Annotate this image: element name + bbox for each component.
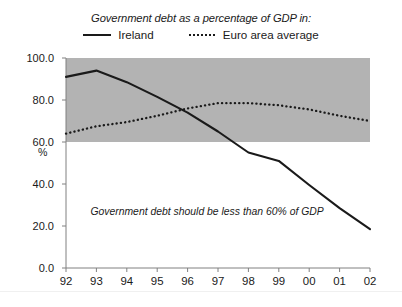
y-axis-unit-label: %: [38, 146, 47, 158]
x-axis-tick-label: 99: [266, 275, 292, 287]
shaded-band: [66, 58, 370, 142]
x-axis-tick-label: 98: [235, 275, 261, 287]
y-axis-tick-label: 100.0: [12, 52, 54, 64]
x-axis-tick-label: 01: [327, 275, 353, 287]
plot-area: 0.020.040.060.080.0100.0 929394959697989…: [0, 0, 402, 307]
x-axis-tick-label: 95: [144, 275, 170, 287]
x-axis-tick-label: 96: [175, 275, 201, 287]
y-axis-tick-label: 40.0: [12, 178, 54, 190]
plot-svg: [0, 0, 402, 307]
x-axis-tick-label: 93: [83, 275, 109, 287]
band-annotation-text: Government debt should be less than 60% …: [90, 206, 323, 217]
x-axis-ticks: [66, 268, 370, 272]
x-axis-tick-label: 97: [205, 275, 231, 287]
x-axis-tick-label: 02: [357, 275, 383, 287]
y-axis-tick-label: 60.0: [12, 136, 54, 148]
chart-container: Government debt as a percentage of GDP i…: [0, 0, 402, 307]
x-axis-tick-label: 92: [53, 275, 79, 287]
x-axis-tick-label: 94: [114, 275, 140, 287]
x-axis-tick-label: 00: [296, 275, 322, 287]
y-axis-tick-label: 20.0: [12, 220, 54, 232]
y-axis-tick-label: 80.0: [12, 94, 54, 106]
y-axis-tick-label: 0.0: [12, 262, 54, 274]
shaded-band-group: [66, 58, 370, 142]
y-axis-ticks: [62, 58, 66, 268]
footer-divider: [0, 291, 402, 292]
